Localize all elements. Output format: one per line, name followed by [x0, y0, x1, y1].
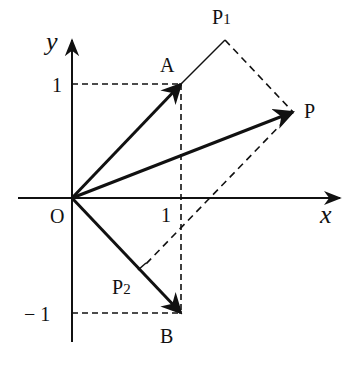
vector-diagram: y x O 1 1 − 1 A B P P1 P2: [0, 0, 348, 372]
vector-oa: [72, 84, 181, 198]
origin-label: O: [50, 205, 64, 227]
y-axis-label: y: [43, 27, 58, 56]
segment-p1-p: [225, 40, 293, 112]
segment-a-p1: [181, 40, 225, 84]
point-p-label: P: [304, 100, 315, 122]
point-a-label: A: [160, 54, 175, 76]
y-tick-1-label: 1: [52, 74, 62, 96]
x-axis-label: x: [319, 200, 332, 229]
segment-p-p2: [143, 112, 293, 267]
point-b-label: B: [160, 325, 173, 347]
point-p1-label: P1: [212, 6, 231, 28]
point-p2-label: P2: [112, 276, 131, 298]
y-tick-neg1-label: − 1: [24, 303, 50, 325]
vector-op: [72, 112, 293, 198]
p2-tick: [138, 263, 146, 270]
x-tick-1-label: 1: [161, 204, 171, 226]
